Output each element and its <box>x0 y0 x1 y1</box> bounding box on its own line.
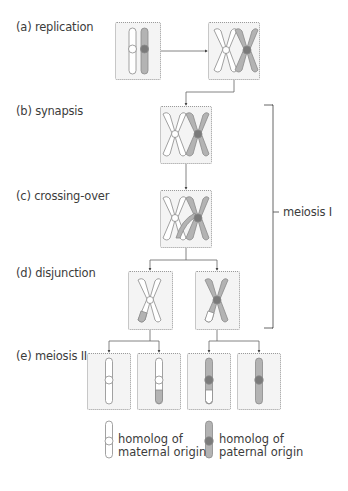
chromatid-1-maternal <box>105 358 113 404</box>
meiosis-i-label: meiosis I <box>283 205 332 219</box>
chromatid-4-paternal <box>255 358 263 404</box>
chromosome-maternal-synapsis <box>163 113 186 156</box>
chromosome-maternal-replicated <box>214 29 237 72</box>
chromosome-paternal-replicated <box>235 29 258 72</box>
diagram-graphics <box>0 0 348 491</box>
legend-maternal-line2: maternal origin <box>118 446 206 459</box>
legend-paternal-text: homolog of paternal origin <box>219 433 303 459</box>
chromosome-maternal-unreplicated <box>129 28 137 74</box>
chromosome-crossing-over <box>163 197 209 240</box>
meiosis-i-bracket <box>264 105 279 328</box>
legend-paternal-line2: paternal origin <box>219 446 303 459</box>
chromosome-disjunction-maternal <box>138 279 161 322</box>
legend-maternal-text: homolog of maternal origin <box>118 433 206 459</box>
chromatid-3-paternal-recombinant <box>205 358 213 404</box>
chromatid-2-maternal-recombinant <box>155 358 163 404</box>
chromosome-paternal-synapsis <box>186 113 209 156</box>
chromosome-paternal-unreplicated <box>141 28 149 74</box>
chromosome-disjunction-paternal <box>205 279 228 322</box>
legend-maternal-icon <box>105 421 113 458</box>
